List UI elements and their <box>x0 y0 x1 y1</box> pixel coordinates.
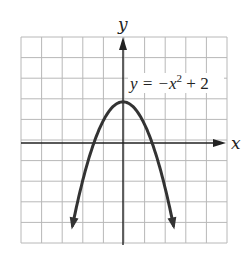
y-axis-arrow-icon <box>119 37 127 50</box>
equation-main: y = −x <box>128 74 177 93</box>
x-axis-label: x <box>231 133 241 153</box>
axes <box>21 37 226 245</box>
equation-label: y = −x2 + 2 <box>128 72 209 93</box>
coordinate-plane: x y y = −x2 + 2 <box>0 0 248 255</box>
y-axis-label: y <box>117 14 128 34</box>
grid <box>21 37 227 243</box>
curve-arrow-right-icon <box>168 217 177 230</box>
curve-arrow-left-icon <box>70 217 79 230</box>
equation-tail: + 2 <box>182 74 209 93</box>
